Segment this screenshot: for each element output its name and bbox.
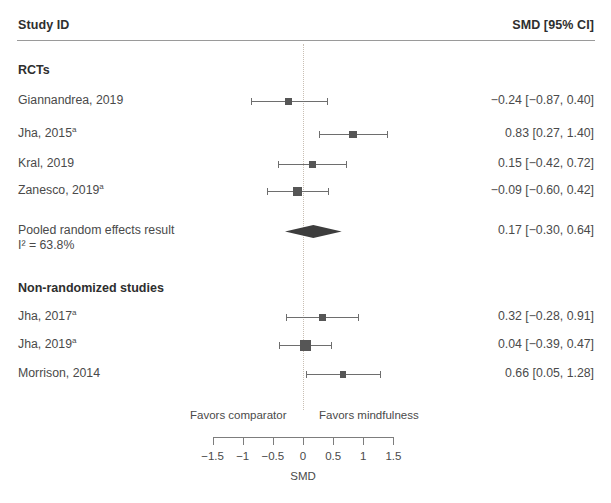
favors-mindfulness-label: Favors mindfulness — [319, 409, 419, 421]
row-value-jha-2015: 0.83 [0.27, 1.40] — [505, 126, 594, 140]
x-axis-tick — [333, 437, 334, 445]
confidence-interval-cap — [251, 98, 252, 105]
x-axis-tick — [393, 437, 394, 445]
group-heading-non-randomized: Non-randomized studies — [18, 281, 164, 295]
x-axis-tick-label: 0.5 — [325, 450, 341, 462]
confidence-interval-cap — [319, 131, 320, 138]
confidence-interval-cap — [306, 371, 307, 378]
row-value-jha-2019: 0.04 [−0.39, 0.47] — [498, 337, 594, 351]
row-value-pooled: 0.17 [−0.30, 0.64] — [498, 223, 594, 237]
row-value-zanesco: −0.09 [−0.60, 0.42] — [491, 183, 594, 197]
confidence-interval-cap — [380, 371, 381, 378]
confidence-interval-cap — [328, 188, 329, 195]
x-axis-tick-label: 0 — [300, 450, 306, 462]
point-estimate-marker — [319, 314, 326, 321]
confidence-interval-cap — [358, 314, 359, 321]
x-axis-tick — [273, 437, 274, 445]
x-axis-tick-label: −0.5 — [261, 450, 284, 462]
row-label-jha-2015: Jha, 2015a — [18, 126, 76, 140]
column-header-study-id: Study ID — [18, 18, 70, 32]
x-axis-tick-label: 1.5 — [385, 450, 401, 462]
row-label-zanesco: Zanesco, 2019a — [18, 183, 104, 197]
confidence-interval-cap — [387, 131, 388, 138]
confidence-interval-cap — [327, 98, 328, 105]
forest-plot: Study ID SMD [95% CI] RCTs Non-randomize… — [0, 0, 611, 503]
point-estimate-marker — [349, 131, 357, 139]
pooled-diamond — [284, 224, 343, 239]
confidence-interval-cap — [346, 161, 347, 168]
confidence-interval-cap — [279, 342, 280, 349]
x-axis-title: SMD — [290, 470, 316, 482]
x-axis-tick — [213, 437, 214, 445]
row-label-morrison: Morrison, 2014 — [18, 366, 100, 380]
confidence-interval-cap — [331, 342, 332, 349]
favors-comparator-label: Favors comparator — [190, 409, 287, 421]
x-axis-tick-label: 1 — [360, 450, 366, 462]
confidence-interval-cap — [278, 161, 279, 168]
x-axis-tick — [243, 437, 244, 445]
group-heading-rcts: RCTs — [18, 63, 50, 77]
point-estimate-marker — [285, 98, 292, 105]
point-estimate-marker — [309, 161, 316, 168]
row-label-jha-2017: Jha, 2017a — [18, 309, 76, 323]
point-estimate-marker — [293, 187, 302, 196]
x-axis-tick — [363, 437, 364, 445]
pooled-heterogeneity: I² = 63.8% — [18, 238, 74, 252]
x-axis-tick-label: −1 — [236, 450, 249, 462]
row-value-morrison: 0.66 [0.05, 1.28] — [505, 366, 594, 380]
confidence-interval-cap — [267, 188, 268, 195]
row-value-kral: 0.15 [−0.42, 0.72] — [498, 156, 594, 170]
point-estimate-marker — [340, 371, 347, 378]
row-label-giannandrea: Giannandrea, 2019 — [18, 93, 123, 107]
row-label-pooled: Pooled random effects result — [18, 223, 174, 237]
x-axis-tick — [303, 437, 304, 445]
row-value-giannandrea: −0.24 [−0.87, 0.40] — [491, 93, 594, 107]
row-label-kral: Kral, 2019 — [18, 156, 74, 170]
point-estimate-marker — [300, 340, 311, 351]
row-value-jha-2017: 0.32 [−0.28, 0.91] — [498, 309, 594, 323]
column-header-smd: SMD [95% CI] — [512, 18, 594, 32]
header-divider — [17, 40, 595, 41]
x-axis-tick-label: −1.5 — [201, 450, 224, 462]
confidence-interval-cap — [286, 314, 287, 321]
row-label-jha-2019: Jha, 2019a — [18, 337, 76, 351]
